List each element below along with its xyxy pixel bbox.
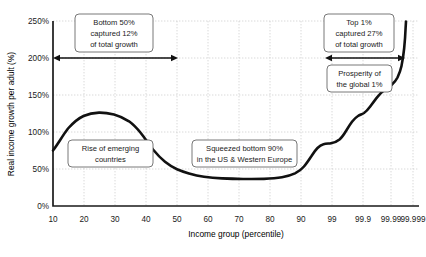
top-1-arrow [325, 55, 405, 61]
x-tick-label: 60 [203, 215, 213, 224]
annotation-line: captured 27% [336, 29, 383, 38]
annotation-top-1: Top 1% captured 27% of total growth [324, 14, 405, 61]
annotation-squeezed: Squeezed bottom 90% in the US & Western … [192, 140, 297, 167]
x-tick-label: 99.999 [400, 215, 425, 224]
annotation-line: Top 1% [346, 18, 372, 27]
annotation-prosperity: Prosperity of the global 1% [327, 65, 392, 92]
y-tick-label: 250% [28, 17, 49, 26]
annotation-line: Bottom 50% [93, 18, 135, 27]
annotation-line: Rise of emerging [82, 144, 139, 153]
income-growth-line-chart: 250% 200% 150% 100% 50% 0% 10 20 30 40 5… [0, 0, 426, 257]
x-tick-label: 70 [234, 215, 244, 224]
y-axis-title: Real income growth per adult (%) [6, 52, 16, 176]
y-tick-label: 200% [28, 54, 49, 63]
annotation-line: of total growth [90, 40, 138, 49]
x-tick-label: 20 [79, 215, 89, 224]
annotation-line: in the US & Western Europe [197, 155, 292, 164]
y-tick-label: 0% [37, 202, 49, 211]
y-tick-label: 150% [28, 91, 49, 100]
annotation-line: the global 1% [336, 80, 382, 89]
x-tick-label: 10 [48, 215, 58, 224]
annotation-line: Squeezed bottom 90% [206, 144, 283, 153]
y-axis-tick-labels: 250% 200% 150% 100% 50% 0% [28, 17, 49, 211]
x-axis-title: Income group (percentile) [188, 229, 284, 239]
annotation-line: Prosperity of [338, 69, 382, 78]
x-tick-label: 50 [172, 215, 182, 224]
chart-container: 250% 200% 150% 100% 50% 0% 10 20 30 40 5… [0, 0, 426, 257]
annotation-line: countries [95, 155, 126, 164]
x-tick-label: 99.99 [381, 215, 402, 224]
y-tick-label: 100% [28, 128, 49, 137]
x-axis-tick-labels: 10 20 30 40 50 60 70 80 90 99 99.9 99.99… [48, 215, 426, 224]
bottom-50-arrow [53, 55, 178, 61]
x-tick-label: 99.9 [355, 215, 371, 224]
arrow-head-left-icon [325, 55, 332, 61]
x-tick-label: 40 [141, 215, 151, 224]
annotation-line: captured 12% [91, 29, 138, 38]
annotation-line: of total growth [335, 40, 383, 49]
y-tick-label: 50% [33, 165, 49, 174]
x-tick-label: 30 [110, 215, 120, 224]
annotation-emerging: Rise of emerging countries [68, 140, 153, 167]
arrow-head-left-icon [53, 55, 60, 61]
x-tick-label: 99 [327, 215, 337, 224]
x-tick-label: 90 [296, 215, 306, 224]
x-tick-label: 80 [265, 215, 275, 224]
